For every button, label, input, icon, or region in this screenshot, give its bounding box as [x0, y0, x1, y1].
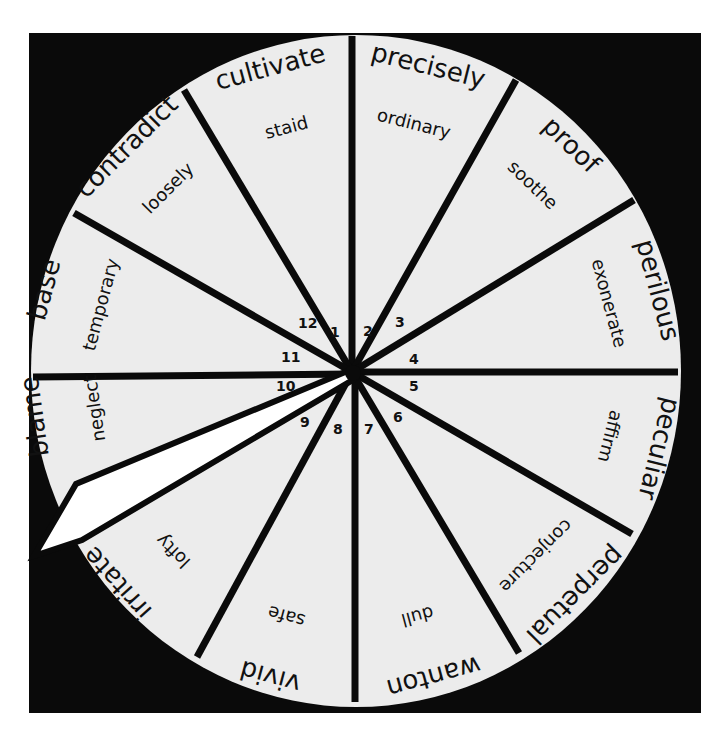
segment-number-7: 7: [364, 421, 374, 437]
word-wheel: cultivate precisely proof perilous pecul…: [0, 0, 713, 739]
segment-number-12: 12: [298, 315, 317, 331]
segment-number-9: 9: [300, 414, 310, 430]
segment-number-3: 3: [395, 314, 405, 330]
segment-number-5: 5: [409, 378, 419, 394]
segment-number-10: 10: [276, 378, 296, 394]
segment-number-4: 4: [409, 351, 419, 367]
segment-number-11: 11: [281, 349, 300, 365]
segment-number-8: 8: [333, 421, 343, 437]
segment-number-6: 6: [393, 409, 403, 425]
segment-number-1: 1: [330, 324, 340, 340]
hub: [345, 365, 361, 381]
segment-number-2: 2: [363, 323, 373, 339]
